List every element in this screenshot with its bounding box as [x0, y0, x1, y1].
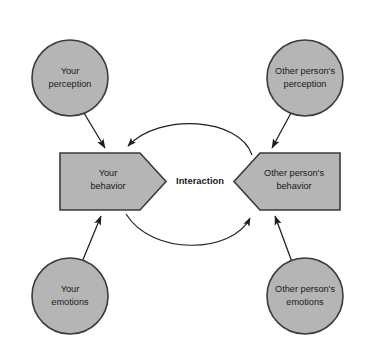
node-other-person-emotions-line2: emotions — [286, 297, 324, 307]
interaction-label-text: Interaction — [176, 175, 224, 186]
node-your-behavior-line2: behavior — [90, 181, 125, 191]
arc-other-behavior-to-your-behavior — [128, 124, 252, 155]
arrow-your-perception-to-your-behavior — [84, 113, 105, 148]
node-your-perception-line2: perception — [49, 79, 92, 89]
node-your-behavior-line1: Your — [99, 168, 118, 178]
node-other-person-perception-line2: perception — [284, 79, 327, 89]
node-your-perception-line1: Your — [61, 66, 80, 76]
interaction-diagram: Your behavior Other person's behavior In… — [0, 0, 376, 355]
node-other-person-perception[interactable]: Other person's perception — [267, 40, 343, 116]
node-your-emotions-line1: Your — [61, 284, 80, 294]
node-your-emotions-line2: emotions — [51, 297, 89, 307]
arrow-other-emotions-to-other-behavior — [275, 216, 292, 262]
interaction-label: Interaction — [176, 175, 224, 186]
node-your-perception[interactable]: Your perception — [32, 40, 108, 116]
node-other-person-emotions[interactable]: Other person's emotions — [267, 258, 343, 334]
arrow-other-perception-to-other-behavior — [272, 113, 291, 148]
diagram-canvas: Your behavior Other person's behavior In… — [0, 0, 376, 355]
node-other-person-behavior-line2: behavior — [276, 181, 311, 191]
arrow-your-emotions-to-your-behavior — [82, 216, 101, 262]
node-other-person-behavior-line1: Other person's — [264, 168, 324, 178]
node-other-person-emotions-line1: Other person's — [275, 284, 335, 294]
node-other-person-behavior[interactable]: Other person's behavior — [234, 153, 340, 210]
node-other-person-perception-line1: Other person's — [275, 66, 335, 76]
node-your-emotions[interactable]: Your emotions — [32, 258, 108, 334]
arc-your-behavior-to-other-behavior — [126, 214, 250, 245]
node-your-behavior[interactable]: Your behavior — [60, 153, 166, 210]
